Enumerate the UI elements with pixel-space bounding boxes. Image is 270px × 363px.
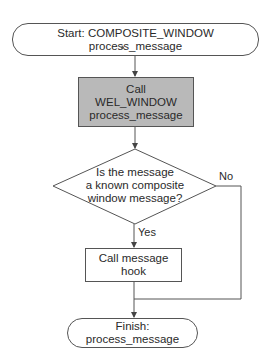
start-label: Start: COMPOSITE_WINDOW process_message bbox=[13, 27, 258, 53]
call-wel-line-3: process_message bbox=[89, 109, 182, 122]
hook-line-1: Call message bbox=[99, 252, 169, 265]
call-wel-line-1: Call bbox=[126, 83, 146, 96]
decision-line-3: window message? bbox=[75, 192, 195, 205]
decision-line-2: a known composite bbox=[75, 179, 195, 192]
finish-terminator: Finish: process_message bbox=[67, 318, 198, 348]
finish-label: Finish: process_message bbox=[68, 320, 197, 346]
yes-label: Yes bbox=[138, 226, 156, 238]
call-wel-window-box: Call WEL_WINDOW process_message bbox=[78, 77, 194, 127]
call-message-hook-box: Call message hook bbox=[85, 248, 182, 282]
decision-line-1: Is the message bbox=[75, 166, 195, 179]
hook-line-2: hook bbox=[121, 265, 146, 278]
decision-label: Is the message a known composite window … bbox=[75, 166, 195, 205]
no-label: No bbox=[219, 170, 233, 182]
cursor-dot bbox=[121, 46, 124, 49]
call-wel-line-2: WEL_WINDOW bbox=[95, 96, 177, 109]
start-terminator: Start: COMPOSITE_WINDOW process_message bbox=[12, 23, 259, 56]
